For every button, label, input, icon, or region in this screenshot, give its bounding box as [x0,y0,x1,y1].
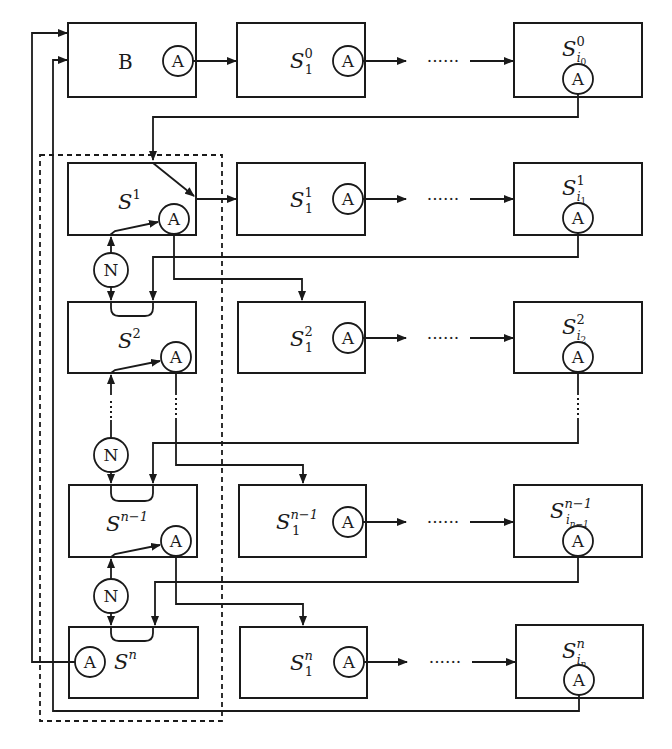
return-line-row-2 [153,418,578,483]
label-B: B [118,50,133,74]
row-2: S2 A S21 A ...... S2i2 A [68,302,642,373]
ellipsis: ...... [427,507,459,527]
label-Si-0: S0i0 [562,34,587,67]
label-Si-n-1: Sn−1in−1 [550,496,592,529]
node-A-label: A [341,328,355,348]
node-A-label: A [572,670,586,690]
row-n: A Sn Sn1 A ...... Snin A [69,625,643,698]
label-S-2: S2 [118,326,141,353]
group-boundary-dashed [40,155,222,721]
bracket-Sn [111,627,153,641]
branch-S1-to-S12 [174,234,302,300]
ellipsis: ...... [429,647,461,667]
node-A-label: A [571,69,585,89]
label-S1-n: Sn1 [290,648,313,679]
node-A-label: A [341,51,355,71]
row-n-1: Sn−1 A Sn−11 A ...... Sn−1in−1 A [69,485,642,557]
node-A-label: A [167,209,181,229]
row-1: S1 A S11 A ...... S1i1 A [68,163,642,235]
return-line-row-1 [153,233,578,300]
label-S1-n-1: Sn−11 [276,507,318,538]
return-line-row-0 [153,94,578,160]
node-A-label: A [341,189,355,209]
ellipsis: ...... [427,184,459,204]
label-Si-2: S2i2 [562,312,586,345]
node-A-label: A [571,531,585,551]
label-S-n: Sn [114,647,137,674]
node-A-label: A [571,208,585,228]
label-Si-1: S1i1 [562,173,586,206]
label-S-1: S1 [118,187,141,214]
bracket-Sn-1 [111,485,153,501]
node-A-label: A [342,652,356,672]
branch-to-S1n-1 [176,418,303,483]
arrow-diagonal-in [153,163,194,196]
feedback-bottom-to-B [53,60,579,711]
arrow-N-to-A [111,361,160,373]
node-A-label: A [571,347,585,367]
node-A-label: A [169,347,183,367]
label-S1-1: S11 [290,185,313,216]
ellipsis: ...... [427,46,459,66]
state-chain-diagram: B A S01 A ...... S0i0 A S1 A S11 A .....… [0,0,672,749]
node-A-label: A [169,531,183,551]
ellipsis: ...... [427,323,459,343]
arrow-N-to-A [111,545,160,557]
label-S1-0: S01 [290,46,313,77]
label-S-n-1: Sn−1 [106,509,148,536]
node-A-label: A [341,512,355,532]
label-S1-2: S21 [290,324,313,355]
bracket-S2 [111,302,153,316]
node-N-label: N [104,260,119,280]
row-0: B A S01 A ...... S0i0 A [68,23,642,97]
label-Si-n: Snin [562,636,587,669]
node-N-label: N [104,445,119,465]
return-line-row-n-1 [155,556,578,625]
arrow-N-to-A [110,222,158,235]
node-N-label: N [104,586,119,606]
node-A-label: A [171,51,185,71]
node-A-label: A [83,652,97,672]
branch-to-S1n [176,556,303,625]
